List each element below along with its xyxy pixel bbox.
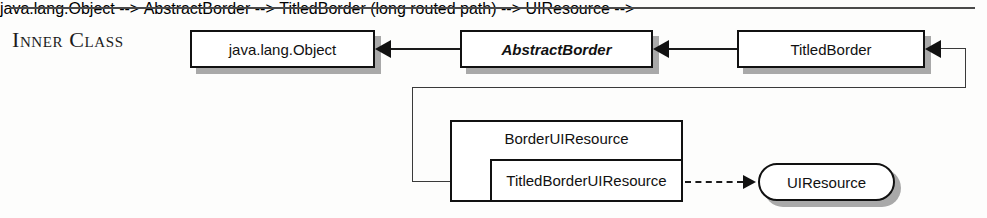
inheritance-route-segment-d: [412, 87, 413, 182]
class-box-titledborder[interactable]: TitledBorder: [737, 30, 925, 68]
class-box-label: BorderUIResource: [504, 130, 628, 147]
class-box-label: TitledBorder: [790, 41, 871, 58]
diagram-page: Inner Class java.lang.Object java.lang.O…: [0, 0, 987, 218]
header-rule: [10, 7, 975, 9]
class-box-abstractborder[interactable]: AbstractBorder: [460, 30, 653, 68]
class-box-java-lang-object[interactable]: java.lang.Object: [190, 30, 375, 68]
interface-box-uiresource[interactable]: UIResource: [758, 163, 895, 201]
inheritance-line-abstractborder-object: [391, 48, 460, 50]
inner-class-box-label: TitledBorderUIResource: [506, 172, 666, 189]
inheritance-route-segment-b: [965, 48, 966, 88]
section-title: Inner Class: [12, 27, 124, 53]
interface-box-label: UIResource: [787, 174, 866, 191]
inheritance-route-segment-c: [412, 87, 966, 88]
implements-dashed-line: [685, 181, 743, 183]
class-box-label: AbstractBorder: [501, 41, 611, 58]
implements-arrowhead-to-uiresource: [743, 175, 756, 189]
inner-class-box-titledborderuiresource[interactable]: TitledBorderUIResource: [490, 159, 683, 202]
inheritance-route-segment-a: [941, 48, 966, 49]
class-box-label: java.lang.Object: [229, 41, 337, 58]
inheritance-arrowhead-to-abstractborder: [653, 40, 669, 58]
inheritance-arrowhead-to-titledborder: [925, 40, 941, 58]
inheritance-arrowhead-to-object: [375, 40, 391, 58]
inheritance-line-titledborder-abstractborder: [669, 48, 737, 50]
